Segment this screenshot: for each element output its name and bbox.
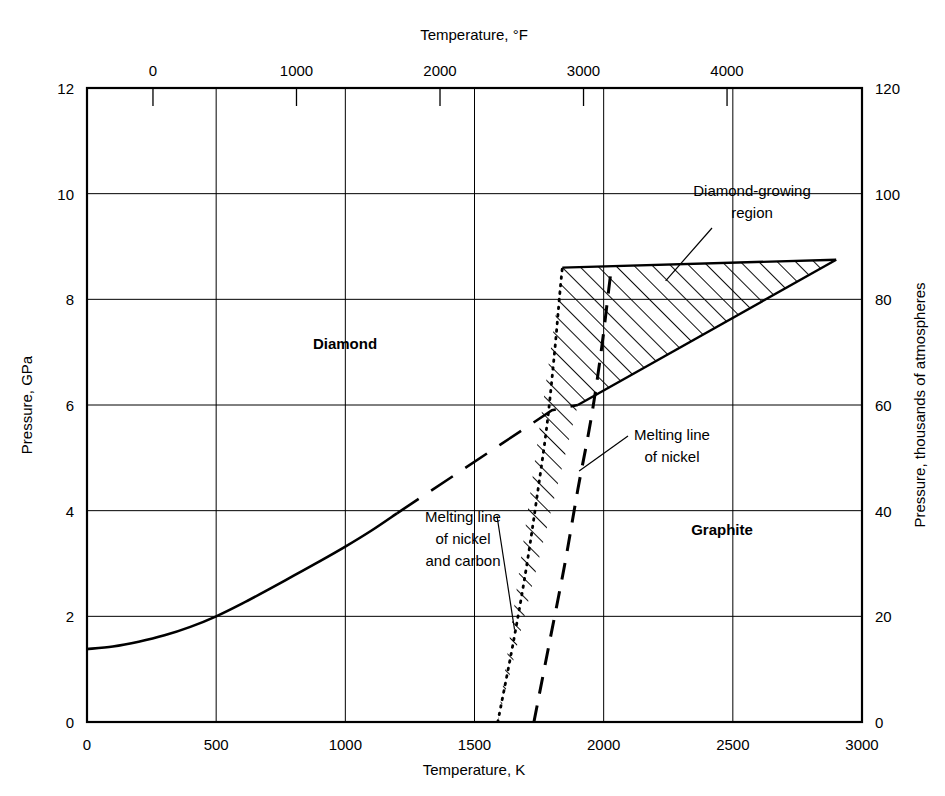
top-tick-label-4000: 4000 — [710, 62, 743, 79]
bottom-tick-label-2000: 2000 — [587, 736, 620, 753]
right-tick-label-20: 20 — [875, 608, 892, 625]
bottom-tick-label-0: 0 — [83, 736, 91, 753]
bottom-axis-title: Temperature, K — [423, 761, 526, 778]
carbon-phase-diagram-figure: 01000200030004000 0500100015002000250030… — [0, 0, 945, 796]
bottom-tick-label-500: 500 — [204, 736, 229, 753]
left-axis-title: Pressure, GPa — [18, 355, 35, 454]
right-axis-title: Pressure, thousands of atmospheres — [911, 282, 928, 527]
region-label-graphite: Graphite — [691, 521, 753, 538]
top-tick-label-3000: 3000 — [567, 62, 600, 79]
left-tick-label-4: 4 — [66, 503, 74, 520]
left-tick-label-8: 8 — [66, 291, 74, 308]
annotation-diamond-growing-line2: region — [731, 204, 773, 221]
top-tick-label-2000: 2000 — [423, 62, 456, 79]
annotation-melting-nickel-carbon-line3: and carbon — [425, 552, 500, 569]
bottom-tick-label-1000: 1000 — [329, 736, 362, 753]
top-axis-title: Temperature, °F — [420, 26, 528, 43]
right-tick-label-100: 100 — [875, 186, 900, 203]
left-tick-label-10: 10 — [57, 186, 74, 203]
right-tick-label-120: 120 — [875, 80, 900, 97]
annotation-melting-nickel-carbon-line2: of nickel — [435, 530, 490, 547]
figure-background — [0, 0, 945, 796]
bottom-tick-label-3000: 3000 — [845, 736, 878, 753]
bottom-tick-label-1500: 1500 — [458, 736, 491, 753]
phase-diagram-svg: 01000200030004000 0500100015002000250030… — [0, 0, 945, 796]
left-tick-label-0: 0 — [66, 714, 74, 731]
right-tick-label-40: 40 — [875, 503, 892, 520]
left-tick-label-2: 2 — [66, 608, 74, 625]
right-tick-label-60: 60 — [875, 397, 892, 414]
region-label-diamond: Diamond — [313, 335, 377, 352]
annotation-melting-nickel-carbon-line1: Melting line — [425, 508, 501, 525]
top-tick-label-0: 0 — [149, 62, 157, 79]
annotation-melting-nickel-line2: of nickel — [644, 448, 699, 465]
bottom-tick-label-2500: 2500 — [716, 736, 749, 753]
right-tick-label-80: 80 — [875, 291, 892, 308]
right-tick-label-0: 0 — [875, 714, 883, 731]
left-tick-label-6: 6 — [66, 397, 74, 414]
annotation-diamond-growing-line1: Diamond-growing — [693, 182, 811, 199]
annotation-melting-nickel-line1: Melting line — [634, 426, 710, 443]
left-tick-label-12: 12 — [57, 80, 74, 97]
top-tick-label-1000: 1000 — [280, 62, 313, 79]
